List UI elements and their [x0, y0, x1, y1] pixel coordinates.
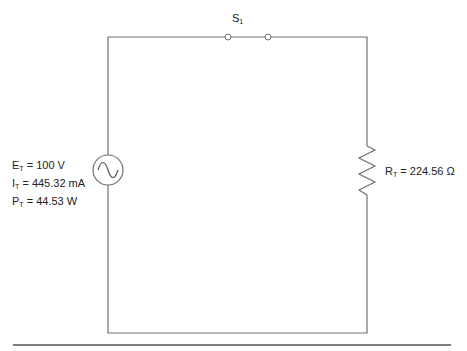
source-current-label: IT = 445.32 mA — [12, 177, 85, 193]
wire-bottom — [108, 185, 367, 333]
source-power-label: PT = 44.53 W — [12, 195, 77, 211]
wire-top-left — [108, 37, 225, 155]
switch-contact-left — [225, 34, 231, 40]
source-voltage-label: ET = 100 V — [12, 159, 65, 175]
switch-label: S1 — [232, 12, 243, 28]
ac-source-icon — [93, 155, 123, 185]
switch-contact-right — [265, 34, 271, 40]
wire-top-right — [271, 37, 367, 146]
resistor-icon — [359, 146, 375, 195]
resistor-label: RT = 224.56 Ω — [385, 165, 455, 181]
